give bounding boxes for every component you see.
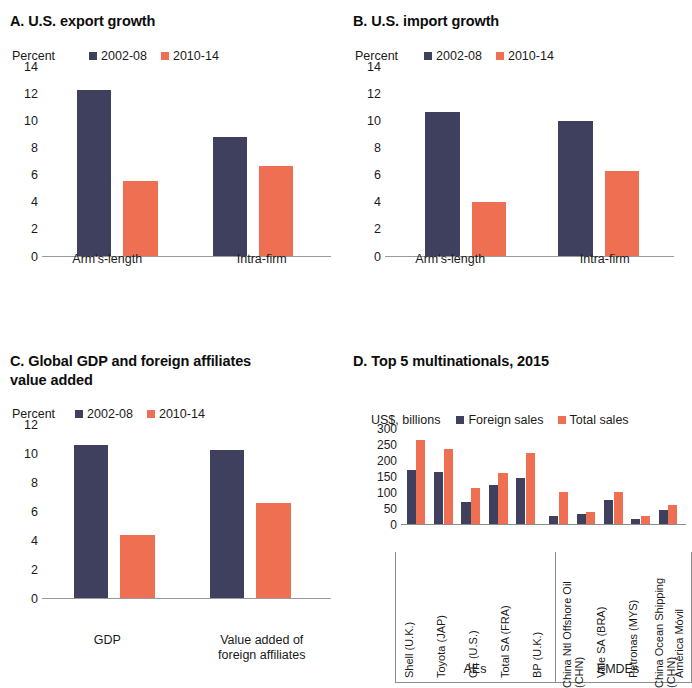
panel-c-ytick-8: 8 — [31, 477, 38, 490]
panel-c-ytick-4: 4 — [31, 535, 38, 548]
panel-d-legend-label-1: Foreign sales — [468, 413, 543, 427]
panel-d-ytick-50: 50 — [384, 503, 397, 515]
panel-d-bar-toyota-foreign — [434, 472, 443, 523]
panel-b-legend-item-1: 2002-08 — [424, 49, 482, 63]
panel-a-legend-label-1: 2002-08 — [101, 49, 147, 63]
panel-a-plot-area — [42, 67, 331, 257]
panel-c-legend-item-1: 2002-08 — [75, 407, 133, 421]
panel-b-bar-intrafirm-2002-08 — [558, 121, 593, 256]
panel-d-xlabel-shell: Shell (U.K.) — [403, 558, 415, 678]
panel-b-ytick-8: 8 — [374, 142, 381, 155]
square-swatch-navy-icon — [424, 52, 432, 60]
panel-c-legend: 2002-08 2010-14 — [75, 407, 205, 421]
panel-d-bar-petronas-total — [614, 492, 623, 523]
panel-c-bar-gdp-2002-08 — [74, 445, 109, 598]
panel-d-ytick-150: 150 — [377, 471, 397, 483]
panel-c-legend-label-1: 2002-08 — [87, 407, 133, 421]
panel-c-ytick-6: 6 — [31, 506, 38, 519]
panel-d-bar-ge-foreign — [461, 502, 470, 524]
square-swatch-orange-icon — [161, 52, 169, 60]
panel-c-bar-valueadded-2002-08 — [210, 450, 245, 598]
panel-d-plot: 300 250 200 150 100 50 0 — [369, 429, 678, 525]
panel-d-legend-label-2: Total sales — [570, 413, 629, 427]
panel-a-us-export-growth: A. U.S. export growth Percent 2002-08 20… — [0, 0, 343, 340]
panel-c-legend-item-2: 2010-14 — [147, 407, 205, 421]
panel-d-legend-row: US$, billions Foreign sales Total sales — [371, 413, 678, 427]
panel-b-bar-intrafirm-2010-14 — [605, 171, 640, 256]
panel-d-xlabel-petronas: Petronas (MYS) — [627, 558, 639, 678]
panel-c-plot: 12 10 8 6 4 2 0 — [12, 425, 335, 599]
panel-d-xlabel-toyota: Toyota (JAP) — [435, 558, 447, 678]
panel-d-ytick-250: 250 — [377, 439, 397, 451]
panel-d-bar-petronas-foreign — [604, 500, 613, 524]
panel-c-category-label-2: Value added of foreign affiliates — [185, 633, 340, 663]
panel-d-bar-bp-total — [526, 453, 535, 523]
panel-b-category-label-1: Arm's-length — [373, 252, 528, 267]
panel-c-ytick-0: 0 — [31, 593, 38, 606]
panel-b-legend: 2002-08 2010-14 — [424, 49, 554, 63]
square-swatch-orange-icon — [558, 416, 566, 424]
panel-d-bar-americamovil-total — [668, 505, 677, 523]
panel-b-ytick-14: 14 — [367, 60, 381, 73]
panel-a-x-axis-labels: Arm's-length Intra-firm — [30, 252, 339, 267]
panel-a-bar-intrafirm-2002-08 — [213, 137, 248, 256]
panel-d-bar-totalsa-total — [498, 473, 507, 523]
panel-d-title: D. Top 5 multinationals, 2015 — [353, 352, 678, 371]
panel-d-xlabel-totalsa: Total SA (FRA) — [499, 558, 511, 678]
panel-a-legend-item-1: 2002-08 — [89, 49, 147, 63]
panel-d-bar-vale-foreign — [577, 514, 586, 524]
panel-c-legend-label-2: 2010-14 — [159, 407, 205, 421]
panel-c-ytick-10: 10 — [24, 448, 38, 461]
panel-a-ytick-4: 4 — [31, 196, 38, 209]
panel-b-ytick-4: 4 — [374, 196, 381, 209]
panel-c-global-gdp-foreign-affiliates: C. Global GDP and foreign affiliates val… — [0, 340, 343, 681]
panel-d-ytick-300: 300 — [377, 423, 397, 435]
panel-c-ytick-2: 2 — [31, 564, 38, 577]
panel-b-bar-armslength-2002-08 — [425, 112, 460, 255]
square-swatch-navy-icon — [456, 416, 464, 424]
panel-b-ytick-12: 12 — [367, 87, 381, 100]
panel-b-plot-area — [385, 67, 674, 257]
panel-c-legend-row: Percent 2002-08 2010-14 — [12, 407, 335, 421]
panel-d-group-label-aes: AEs — [395, 662, 555, 676]
panel-b-y-axis: 14 12 10 8 6 4 2 0 — [355, 67, 381, 257]
panel-a-bar-intrafirm-2010-14 — [259, 166, 294, 255]
panel-d-xlabel-americamovil: América Móvil — [673, 558, 685, 678]
panel-a-category-label-2: Intra-firm — [185, 252, 340, 267]
panel-b-ytick-6: 6 — [374, 169, 381, 182]
panel-a-legend: 2002-08 2010-14 — [89, 49, 219, 63]
panel-d-xlabel-ge: GE (U.S.) — [467, 558, 479, 678]
panel-d-xlabel-vale: Vale SA (BRA) — [595, 558, 607, 678]
panel-d-y-axis: 300 250 200 150 100 50 0 — [369, 429, 397, 525]
panel-a-legend-label-2: 2010-14 — [173, 49, 219, 63]
panel-d-legend-item-1: Foreign sales — [456, 413, 543, 427]
square-swatch-navy-icon — [89, 52, 97, 60]
panel-d-group-label-emdes: EMDEs — [556, 662, 680, 676]
panel-a-bar-armslength-2002-08 — [77, 90, 112, 256]
panel-a-ytick-2: 2 — [31, 223, 38, 236]
panel-d-bar-cosco-total — [641, 516, 650, 523]
panel-a-ytick-6: 6 — [31, 169, 38, 182]
panel-d-plot-area — [401, 429, 686, 525]
panel-d-legend: Foreign sales Total sales — [456, 413, 628, 427]
panel-a-title: A. U.S. export growth — [10, 12, 335, 31]
panel-a-legend-item-2: 2010-14 — [161, 49, 219, 63]
panel-b-legend-label-2: 2010-14 — [508, 49, 554, 63]
panel-d-bar-vale-total — [586, 512, 595, 523]
panel-c-title: C. Global GDP and foreign affiliates val… — [10, 352, 335, 389]
panel-d-bar-ge-total — [471, 488, 480, 524]
square-swatch-orange-icon — [496, 52, 504, 60]
panel-b-ytick-10: 10 — [367, 115, 381, 128]
panel-a-ytick-14: 14 — [24, 60, 38, 73]
panel-c-plot-area — [42, 425, 331, 599]
panel-b-legend-label-1: 2002-08 — [436, 49, 482, 63]
panel-a-legend-row: Percent 2002-08 2010-14 — [12, 49, 335, 63]
panel-d-bar-cosco-foreign — [631, 519, 640, 524]
panel-d-ytick-200: 200 — [377, 455, 397, 467]
panel-b-plot: 14 12 10 8 6 4 2 0 — [355, 67, 678, 257]
panel-d-legend-item-2: Total sales — [558, 413, 629, 427]
panel-c-category-label-1: GDP — [30, 633, 185, 663]
panel-a-y-axis: 14 12 10 8 6 4 2 0 — [12, 67, 38, 257]
panel-a-ytick-10: 10 — [24, 115, 38, 128]
